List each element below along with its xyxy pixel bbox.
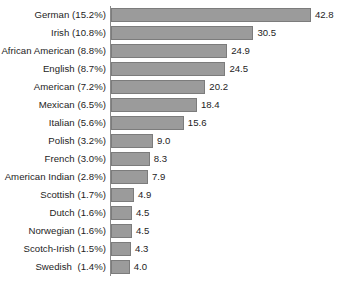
category-label: Swedish (1.4%) [0,258,106,276]
bar [111,224,132,238]
bar-value-label: 15.6 [188,116,207,130]
category-label: Dutch (1.6%) [0,204,106,222]
category-label: Scotch-Irish (1.5%) [0,240,106,258]
bar [111,44,227,58]
bar-row: Italian (5.6%)15.6 [0,114,347,132]
bar-row: American Indian (2.8%)7.9 [0,168,347,186]
bar [111,188,134,202]
category-label: German (15.2%) [0,6,106,24]
bar [111,80,205,94]
bar-value-label: 18.4 [201,98,220,112]
bar-value-label: 24.5 [229,62,248,76]
bar-value-label: 42.8 [315,8,334,22]
bar-row: Irish (10.8%)30.5 [0,24,347,42]
bar-value-label: 7.9 [152,170,165,184]
bar-row: German (15.2%)42.8 [0,6,347,24]
bar-value-label: 4.3 [135,242,148,256]
category-label: Norwegian (1.6%) [0,222,106,240]
bar-chart: German (15.2%)42.8Irish (10.8%)30.5Afric… [0,0,347,281]
bar-value-label: 30.5 [257,26,276,40]
bar-value-label: 4.0 [134,260,147,274]
bar-value-label: 4.9 [138,188,151,202]
bar [111,26,253,40]
category-label: Mexican (6.5%) [0,96,106,114]
category-label: Polish (3.2%) [0,132,106,150]
bar-row: Dutch (1.6%)4.5 [0,204,347,222]
category-label: Irish (10.8%) [0,24,106,42]
bar-value-label: 9.0 [157,134,170,148]
bar-row: Polish (3.2%)9.0 [0,132,347,150]
bar-row: Mexican (6.5%)18.4 [0,96,347,114]
bar-row: Scotch-Irish (1.5%)4.3 [0,240,347,258]
bar [111,62,225,76]
category-label: American Indian (2.8%) [0,168,106,186]
category-label: English (8.7%) [0,60,106,78]
bar [111,206,132,220]
bar-row: American (7.2%)20.2 [0,78,347,96]
bar-value-label: 4.5 [136,224,149,238]
plot-area: German (15.2%)42.8Irish (10.8%)30.5Afric… [0,0,347,281]
bar-value-label: 24.9 [231,44,250,58]
bar [111,134,153,148]
bar-row: African American (8.8%)24.9 [0,42,347,60]
bar-row: French (3.0%)8.3 [0,150,347,168]
bar-row: Swedish (1.4%)4.0 [0,258,347,276]
category-label: Scottish (1.7%) [0,186,106,204]
bar-value-label: 8.3 [154,152,167,166]
bar [111,8,311,22]
category-label: Italian (5.6%) [0,114,106,132]
bar-row: Norwegian (1.6%)4.5 [0,222,347,240]
bar-value-label: 4.5 [136,206,149,220]
bar [111,116,184,130]
bar [111,260,130,274]
bar [111,242,131,256]
bar-value-label: 20.2 [209,80,228,94]
bar [111,98,197,112]
category-label: American (7.2%) [0,78,106,96]
category-label: African American (8.8%) [0,42,106,60]
category-label: French (3.0%) [0,150,106,168]
bar-row: Scottish (1.7%)4.9 [0,186,347,204]
bar-row: English (8.7%)24.5 [0,60,347,78]
bar [111,170,148,184]
bar [111,152,150,166]
